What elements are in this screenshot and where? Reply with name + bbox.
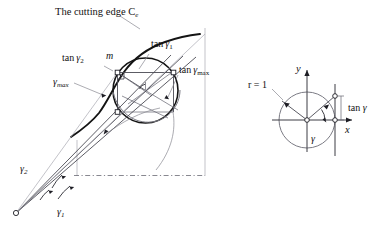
gamma-max-label: γmax: [53, 76, 70, 89]
gamma2-label: γ2: [20, 163, 28, 176]
x-axis-label: x: [344, 124, 350, 135]
tan-gamma-max-leader: [168, 75, 178, 97]
gamma1-sub: 1: [61, 211, 65, 219]
lower-left-chord-node: [115, 110, 120, 115]
diagram-canvas: The cutting edge Ce m tanγ1 tanγ2 tanγma…: [0, 0, 388, 230]
y-axis-arrowhead: [304, 70, 309, 76]
y-axis-label: y: [295, 63, 301, 74]
gamma1-arc-arrowhead: [70, 187, 75, 191]
crossing-chord-a: [128, 73, 171, 104]
tan-gamma2-word: tan: [62, 52, 74, 63]
radius-label-leader: [272, 89, 283, 100]
tan-gamma2-label: tanγ2: [62, 52, 84, 65]
tan-gamma-symbol: γ: [363, 102, 368, 113]
point-m-node: [115, 70, 120, 75]
tan-gamma1-leader: [139, 54, 149, 69]
tan-gamma2-sub: 2: [80, 57, 84, 65]
origin-node: [13, 210, 18, 215]
gamma2-sub: 2: [24, 168, 28, 176]
gamma-mid-arc-arrowhead: [49, 191, 54, 195]
gamma-max-leader: [74, 83, 103, 95]
ray-to-point-m: [16, 73, 118, 214]
gamma2-arc-arrowhead: [62, 176, 67, 180]
tan-gamma1-word: tan: [151, 38, 163, 49]
tan-gamma-label: tanγ: [348, 102, 368, 113]
gamma1-angle-arc: [58, 186, 70, 199]
x-axis-arrowhead: [346, 117, 352, 122]
tan-gamma-max-word: tan: [179, 64, 191, 75]
right-chord-node: [171, 70, 176, 75]
gamma-max-sub: max: [57, 81, 70, 89]
radius-leader-arrowhead: [284, 103, 290, 108]
cutting-edge-caption: The cutting edge Ce: [55, 6, 138, 19]
inner-construction-arc: [113, 90, 180, 122]
gamma2-ray: [16, 55, 171, 213]
figure-root: The cutting edge Ce m tanγ1 tanγ2 tanγma…: [0, 0, 388, 230]
gamma1-ray: [16, 57, 196, 213]
left-diagram-group: The cutting edge Ce m tanγ1 tanγ2 tanγma…: [13, 6, 209, 219]
radius-label: r = 1: [248, 79, 267, 90]
gamma1-label: γ1: [57, 206, 64, 219]
unit-point-node: [333, 118, 338, 123]
tan-gamma-word: tan: [348, 102, 360, 113]
gamma-max-leader-arrowhead: [102, 94, 107, 98]
cutting-edge-caption-sub: e: [135, 11, 138, 19]
point-m-label: m: [106, 50, 113, 61]
origin-node-right: [305, 118, 310, 123]
cutting-edge-caption-text: The cutting edge C: [55, 6, 135, 17]
right-diagram-group: r = 1 x y tanγ γ: [248, 63, 368, 156]
gamma-angle-label: γ: [311, 133, 316, 144]
tan-gamma2-leader: [104, 66, 113, 71]
terminal-ray: [307, 96, 335, 120]
tan-gamma-max-sub: max: [197, 69, 210, 77]
tan-gamma1-sub: 1: [169, 43, 173, 51]
tangent-intersection-node: [333, 94, 338, 99]
